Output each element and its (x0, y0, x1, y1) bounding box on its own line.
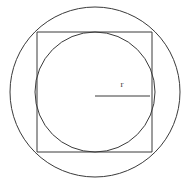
figure-canvas: r (0, 0, 190, 189)
geometry-figure: r (0, 0, 190, 189)
figure-background (0, 0, 190, 189)
radius-label: r (121, 79, 124, 89)
